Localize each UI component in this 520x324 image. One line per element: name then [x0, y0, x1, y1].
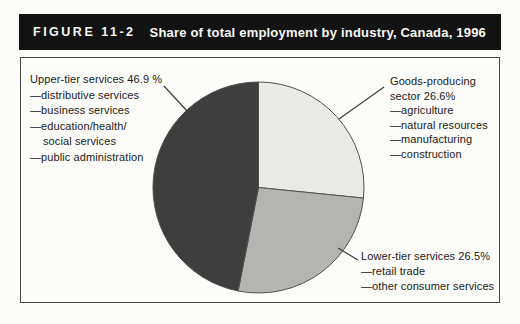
callout-line: —manufacturing — [390, 132, 488, 147]
callout-line: Goods-producing — [390, 74, 488, 89]
page: FIGURE 11-2 Share of total employment by… — [0, 0, 520, 324]
figure-number: FIGURE 11-2 — [33, 25, 136, 39]
callout-line: Lower-tier services 26.5% — [361, 249, 494, 264]
callout-goods-producing-sector: Goods-producing sector 26.6% —agricultur… — [390, 74, 488, 161]
callout-line: —education/health/ — [30, 119, 162, 135]
callout-line: sector 26.6% — [390, 89, 488, 104]
callout-line: —agriculture — [390, 103, 488, 118]
callout-line: —distributive services — [30, 88, 162, 104]
callout-line: —retail trade — [361, 264, 494, 279]
callout-upper-tier-services: Upper-tier services 46.9 % —distributive… — [30, 72, 162, 165]
callout-line: social services — [30, 134, 162, 150]
figure-title-bar: FIGURE 11-2 Share of total employment by… — [19, 14, 501, 50]
callout-line: —other consumer services — [361, 279, 494, 294]
figure-title: Share of total employment by industry, C… — [150, 25, 487, 40]
callout-line: —public administration — [30, 150, 162, 166]
callout-line: Upper-tier services 46.9 % — [30, 72, 162, 88]
callout-lower-tier-services: Lower-tier services 26.5% —retail trade … — [361, 249, 494, 294]
callout-line: —business services — [30, 103, 162, 119]
callout-line: —construction — [390, 147, 488, 162]
callout-line: —natural resources — [390, 118, 488, 133]
